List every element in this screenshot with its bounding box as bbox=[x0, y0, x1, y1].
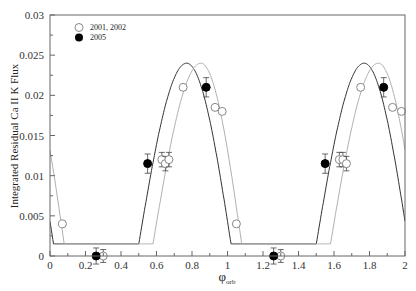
x-tick-label: 1.8 bbox=[363, 259, 377, 271]
x-tick-label: 0.8 bbox=[185, 259, 199, 271]
chart: 00.20.40.60.811.21.41.61.82 00.0050.010.… bbox=[0, 0, 416, 291]
x-tick-label: 1.2 bbox=[256, 259, 270, 271]
x-tick-label: 2 bbox=[402, 259, 408, 271]
legend-label-2005: 2005 bbox=[90, 33, 106, 42]
y-axis-title: Integrated Residual Ca II K Flux bbox=[8, 63, 20, 208]
data-point-2001-2002 bbox=[342, 160, 350, 168]
model-curve-light bbox=[50, 63, 405, 244]
y-tick-label: 0 bbox=[39, 250, 45, 262]
model-curve-dark bbox=[50, 63, 405, 244]
legend-label-2001-2002: 2001, 2002 bbox=[90, 23, 126, 32]
data-point-2001-2002 bbox=[179, 83, 187, 91]
legend-open-circle-icon bbox=[75, 24, 83, 32]
y-tick-label: 0.015 bbox=[19, 130, 44, 142]
x-tick-label: 0.6 bbox=[150, 259, 164, 271]
data-point-2001-2002 bbox=[357, 83, 365, 91]
y-tick-label: 0.01 bbox=[25, 170, 44, 182]
data-points bbox=[58, 78, 405, 264]
data-point-2005 bbox=[202, 83, 210, 91]
x-axis-title: φorb bbox=[219, 269, 236, 286]
data-point-2001-2002 bbox=[232, 220, 240, 228]
legend: 2001, 2002 2005 bbox=[75, 23, 126, 42]
data-point-2001-2002 bbox=[218, 107, 226, 115]
y-tick-label: 0.005 bbox=[19, 210, 44, 222]
data-point-2005 bbox=[144, 160, 152, 168]
x-tick-label: 0.4 bbox=[114, 259, 128, 271]
x-tick-label: 1.4 bbox=[292, 259, 306, 271]
y-tick-label: 0.02 bbox=[25, 89, 44, 101]
data-point-2005 bbox=[380, 83, 388, 91]
data-point-2001-2002 bbox=[389, 103, 397, 111]
x-tick-label: 0 bbox=[47, 259, 53, 271]
x-tick-label: 1.6 bbox=[327, 259, 341, 271]
data-point-2001-2002 bbox=[58, 220, 66, 228]
y-tick-label: 0.025 bbox=[19, 49, 44, 61]
data-point-2001-2002 bbox=[165, 156, 173, 164]
legend-filled-circle-icon bbox=[75, 34, 83, 42]
model-curves bbox=[50, 63, 405, 244]
data-point-2001-2002 bbox=[397, 107, 405, 115]
x-tick-label: 0.2 bbox=[79, 259, 93, 271]
data-point-2005 bbox=[321, 160, 329, 168]
y-tick-label: 0.03 bbox=[25, 9, 45, 21]
